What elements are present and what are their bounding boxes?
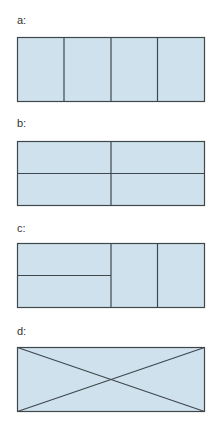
figure-a bbox=[18, 38, 205, 102]
figure-b bbox=[18, 142, 205, 206]
figure-c bbox=[18, 244, 205, 308]
figure-d bbox=[18, 348, 205, 412]
partition-diagrams bbox=[0, 0, 215, 429]
